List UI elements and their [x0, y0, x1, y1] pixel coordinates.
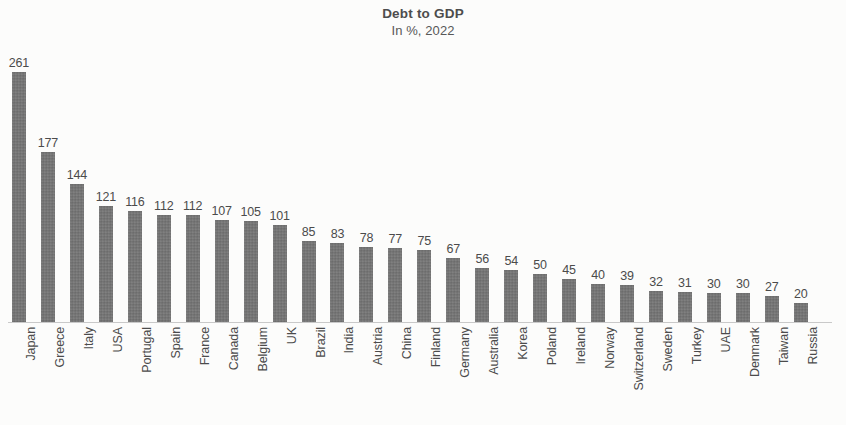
x-axis-tick-label: USA [111, 327, 125, 352]
x-axis-tick-label: Canada [227, 327, 241, 370]
bar-value-label: 45 [562, 264, 576, 277]
bar-value-label: 261 [9, 57, 29, 70]
bar [417, 250, 431, 322]
x-axis-tick-label: Sweden [661, 327, 675, 372]
x-axis-tick-label-text: Italy [82, 327, 96, 349]
bar [620, 285, 634, 322]
bar-value-label: 78 [360, 232, 374, 245]
x-axis-tick-label: Brazil [314, 327, 328, 358]
bar-value-label: 83 [331, 228, 345, 241]
bar-value-label: 30 [707, 278, 721, 291]
bar [99, 206, 113, 322]
x-axis-tick-label: Norway [603, 327, 617, 369]
bar [446, 258, 460, 322]
x-axis-tick-label-text: Spain [169, 327, 183, 358]
x-axis-tick-label-text: Portugal [140, 327, 154, 373]
x-axis-tick-label-text: USA [111, 327, 125, 352]
x-axis-tick-label: Korea [516, 327, 530, 360]
x-axis-tick-label: UK [285, 327, 299, 344]
bar [591, 284, 605, 322]
bar [12, 72, 26, 322]
x-axis-tick-label-text: UK [285, 327, 299, 344]
x-axis-tick-label: Austria [371, 327, 385, 365]
bar-value-label: 30 [736, 278, 750, 291]
x-axis-line [8, 322, 832, 323]
x-axis-tick-label: UAE [719, 327, 733, 352]
x-axis-tick-label: China [400, 327, 414, 359]
bar [707, 293, 721, 322]
bar-value-label: 101 [269, 210, 289, 223]
bar-value-label: 85 [302, 226, 316, 239]
bar-value-label: 31 [678, 277, 692, 290]
bar [794, 303, 808, 322]
bar [186, 215, 200, 322]
x-axis-tick-label-text: China [400, 327, 414, 359]
x-axis-tick-label: Taiwan [777, 327, 791, 365]
x-axis-tick-label: Ireland [574, 327, 588, 365]
x-axis-tick-label: Turkey [690, 327, 704, 364]
x-axis-tick-label-text: Korea [516, 327, 530, 360]
x-axis-tick-label: Germany [458, 327, 472, 378]
bar-value-label: 75 [418, 235, 432, 248]
bar-value-label: 77 [389, 233, 403, 246]
x-axis-tick-label: Russia [806, 327, 820, 365]
bar-value-label: 20 [794, 288, 808, 301]
bar-value-label: 116 [125, 196, 144, 209]
bar [302, 241, 316, 322]
bar [273, 225, 287, 322]
bar [157, 215, 171, 322]
bar-value-label: 121 [96, 191, 116, 204]
bar [533, 274, 547, 322]
x-axis-tick-label: France [198, 327, 212, 365]
x-axis-tick-label: India [342, 327, 356, 354]
x-axis-tick-label-text: Australia [487, 327, 501, 375]
x-axis-tick-label: Australia [487, 327, 501, 375]
x-axis-tick-label-text: Brazil [314, 327, 328, 358]
bar [736, 293, 750, 322]
bar-value-label: 56 [475, 253, 489, 266]
x-axis-tick-label: Switzerland [632, 327, 646, 391]
x-axis-tick-label-text: France [198, 327, 212, 365]
bar-chart: Debt to GDP In %, 2022 261Japan177Greece… [0, 0, 846, 425]
bar [244, 221, 258, 322]
x-axis-tick-label-text: Canada [227, 327, 241, 370]
x-axis-tick-label: Poland [545, 327, 559, 365]
x-axis-tick-label-text: Ireland [574, 327, 588, 365]
x-axis-tick-label: Japan [24, 327, 38, 361]
x-axis-tick-label: Denmark [748, 327, 762, 377]
bar-value-label: 105 [240, 206, 260, 219]
bar [678, 292, 692, 322]
x-axis-tick-label-text: UAE [719, 327, 733, 352]
x-axis-tick-label: Spain [169, 327, 183, 358]
plot-area: 261Japan177Greece144Italy121USA116Portug… [0, 0, 846, 425]
x-axis-tick-label: Italy [82, 327, 96, 349]
x-axis-tick-label-text: Switzerland [632, 327, 646, 391]
bar [562, 279, 576, 322]
bar-value-label: 40 [591, 269, 605, 282]
x-axis-tick-label-text: Finland [429, 327, 443, 367]
bar-value-label: 32 [649, 276, 663, 289]
x-axis-tick-label-text: Sweden [661, 327, 675, 372]
x-axis-tick-label-text: Japan [24, 327, 38, 361]
x-axis-tick-label-text: Germany [458, 327, 472, 378]
bar-value-label: 144 [67, 169, 87, 182]
x-axis-tick-label-text: Denmark [748, 327, 762, 377]
bar-value-label: 112 [183, 200, 202, 213]
x-axis-tick-label-text: Norway [603, 327, 617, 369]
bar [475, 268, 489, 322]
x-axis-tick-label: Finland [429, 327, 443, 367]
bar-value-label: 50 [533, 259, 547, 272]
bar-value-label: 107 [212, 205, 232, 218]
bar-value-label: 27 [765, 281, 779, 294]
bar-value-label: 177 [38, 137, 58, 150]
bar [649, 291, 663, 322]
bar [330, 243, 344, 323]
x-axis-tick-label-text: Turkey [690, 327, 704, 364]
bar-value-label: 112 [154, 200, 173, 213]
bar [128, 211, 142, 322]
bar-value-label: 54 [504, 255, 518, 268]
bar [388, 248, 402, 322]
bar [215, 220, 229, 322]
x-axis-tick-label: Portugal [140, 327, 154, 373]
x-axis-tick-label-text: Taiwan [777, 327, 791, 365]
